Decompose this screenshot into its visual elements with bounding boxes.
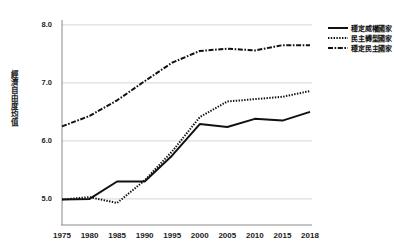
legend-item[interactable]: 穩定民主國家	[328, 43, 392, 52]
legend-item-label: 民主轉型國家	[351, 33, 392, 43]
chart-container: 經濟自由度均值 5.06.07.08.0 1975198019851990199…	[0, 0, 394, 248]
legend-item[interactable]: 穩定威權國家	[328, 23, 392, 32]
series-line-1	[62, 112, 310, 200]
series-line-3	[62, 45, 310, 126]
chart-legend: 穩定威權國家民主轉型國家穩定民主國家	[328, 23, 392, 53]
series-line-2	[62, 91, 310, 203]
legend-line-swatch	[328, 34, 348, 42]
legend-item-label: 穩定威權國家	[351, 23, 392, 33]
legend-line-swatch	[328, 44, 348, 52]
legend-item[interactable]: 民主轉型國家	[328, 33, 392, 42]
legend-line-swatch	[328, 24, 348, 32]
legend-item-label: 穩定民主國家	[351, 43, 392, 53]
